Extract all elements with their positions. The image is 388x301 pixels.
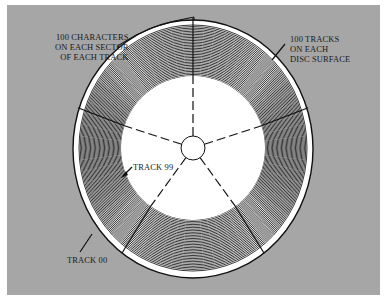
label-characters-per-sector: 100 CHARACTERS ON EACH SECTOR OF EACH TR… bbox=[42, 32, 128, 62]
label-track-00: TRACK 00 bbox=[67, 255, 107, 265]
label-track-99: TRACK 99 bbox=[133, 162, 173, 172]
label-line: 100 CHARACTERS bbox=[42, 32, 128, 42]
label-line: DISC SURFACE bbox=[290, 54, 350, 64]
label-line: ON EACH SECTOR bbox=[42, 42, 128, 52]
label-line: 100 TRACKS bbox=[290, 34, 350, 44]
label-tracks-per-surface: 100 TRACKS ON EACH DISC SURFACE bbox=[290, 34, 350, 64]
track00-pointer bbox=[80, 234, 92, 252]
label-line: ON EACH bbox=[290, 44, 350, 54]
label-line: OF EACH TRACK bbox=[42, 52, 128, 62]
disc-hub bbox=[181, 136, 205, 160]
